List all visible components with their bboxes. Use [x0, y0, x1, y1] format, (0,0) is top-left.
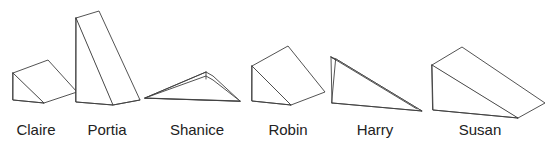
- wedge-portia: [76, 11, 140, 105]
- wedge-illustration: [0, 0, 558, 146]
- wedge-harry-back-edge: [331, 57, 332, 103]
- wedge-shanice: [145, 72, 240, 101]
- wedge-claire: [13, 60, 77, 103]
- figure-canvas: Claire Portia Shanice Robin Harry Susan: [0, 0, 558, 146]
- wedge-susan: [432, 47, 545, 118]
- wedge-robin: [252, 46, 325, 105]
- wedge-harry: [331, 57, 422, 111]
